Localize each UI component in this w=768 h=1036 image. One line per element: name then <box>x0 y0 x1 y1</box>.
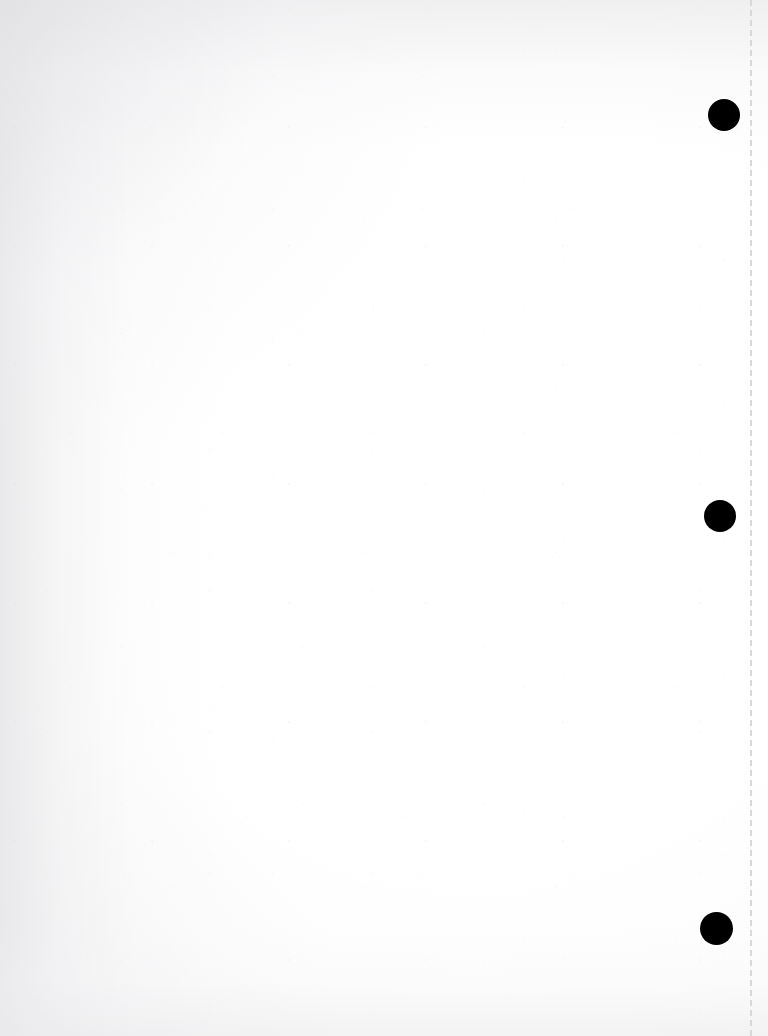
perforation-line <box>750 0 752 1036</box>
scanned-page <box>0 0 768 1036</box>
bottom-punch-hole <box>700 912 733 945</box>
top-punch-hole <box>708 99 740 131</box>
paper-grain-texture <box>0 0 768 1036</box>
middle-punch-hole <box>704 500 736 532</box>
